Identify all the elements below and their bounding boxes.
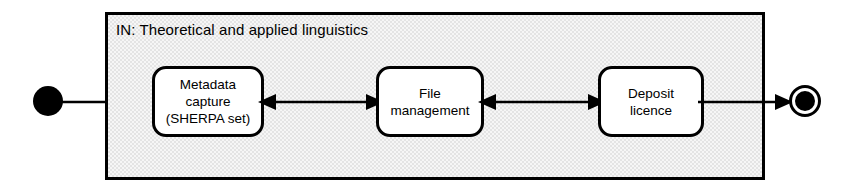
state-label-line: File <box>419 85 441 102</box>
initial-node-icon <box>33 86 63 116</box>
state-metadata-capture[interactable]: Metadata capture (SHERPA set) <box>152 66 264 137</box>
state-label-line: licence <box>630 102 672 119</box>
composite-state-title: IN: Theoretical and applied linguistics <box>116 21 368 38</box>
state-deposit-licence[interactable]: Deposit licence <box>598 66 704 137</box>
final-node-icon <box>789 85 821 117</box>
state-label-line: Metadata <box>180 76 236 93</box>
final-node-inner <box>795 91 815 111</box>
state-label-line: management <box>391 102 470 119</box>
state-diagram: IN: Theoretical and applied linguistics … <box>0 0 852 195</box>
state-file-management[interactable]: File management <box>376 66 484 137</box>
transition-file-to-deposit <box>478 86 606 118</box>
state-label-line: (SHERPA set) <box>166 110 251 127</box>
state-label-line: capture <box>185 93 230 110</box>
transition-metadata-to-file <box>258 86 384 118</box>
transition-deposit-to-end <box>698 86 793 118</box>
state-label-line: Deposit <box>628 85 674 102</box>
